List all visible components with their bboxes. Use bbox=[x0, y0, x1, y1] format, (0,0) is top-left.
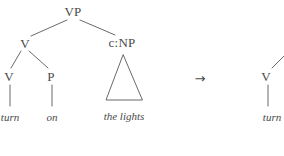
node-v-upper: V bbox=[20, 37, 30, 50]
branch-vp-to-cnp bbox=[80, 20, 115, 35]
np-triangle-icon bbox=[106, 55, 142, 100]
branch-v-to-p bbox=[29, 51, 48, 68]
branch-v-to-v bbox=[11, 51, 21, 68]
rightwards-arrow-icon: → bbox=[195, 72, 206, 85]
node-c-np: c:NP bbox=[109, 36, 136, 49]
node-v-lower: V bbox=[4, 70, 14, 83]
terminal-on: on bbox=[47, 112, 58, 123]
branch-vp-to-v bbox=[31, 20, 67, 36]
terminal-the-lights: the lights bbox=[104, 111, 145, 122]
node-p: P bbox=[47, 70, 54, 83]
branch-right-into-v bbox=[272, 56, 284, 68]
terminal-turn-right: turn bbox=[263, 112, 281, 123]
terminal-turn: turn bbox=[1, 112, 19, 123]
node-vp: VP bbox=[64, 5, 81, 18]
tree-lines-layer bbox=[0, 0, 284, 156]
node-v-right: V bbox=[261, 70, 271, 83]
syntax-tree-figure: VP V c:NP V P turn on the lights → V tur… bbox=[0, 0, 284, 156]
